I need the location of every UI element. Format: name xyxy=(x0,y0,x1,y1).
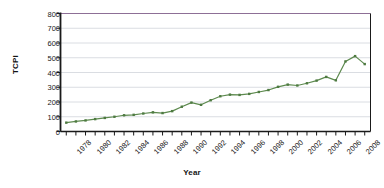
x-tick-label: 1982 xyxy=(114,138,132,156)
x-tick-label: 1996 xyxy=(248,138,266,156)
x-tick-label: 1978 xyxy=(75,138,93,156)
x-tick-label: 2000 xyxy=(287,138,305,156)
x-tick-label: 1986 xyxy=(152,138,170,156)
x-tick-label: 2006 xyxy=(345,138,363,156)
x-tick-label: 2008 xyxy=(364,138,382,156)
x-tick-label: 1984 xyxy=(133,138,151,156)
x-axis-tick-labels: 1978198019821984198619881990199219941996… xyxy=(0,0,384,188)
x-tick-label: 1988 xyxy=(171,138,189,156)
x-tick-label: 2002 xyxy=(306,138,324,156)
chart-container: TCPI Year 0100200300400500600700800 1978… xyxy=(0,0,384,188)
x-tick-label: 1980 xyxy=(94,138,112,156)
x-tick-label: 1990 xyxy=(191,138,209,156)
x-tick-label: 1998 xyxy=(268,138,286,156)
x-tick-label: 1994 xyxy=(229,138,247,156)
x-tick-label: 2004 xyxy=(325,138,343,156)
x-tick-label: 1992 xyxy=(210,138,228,156)
